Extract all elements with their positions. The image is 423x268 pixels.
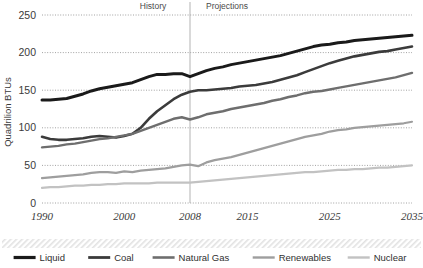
y-tick-label: 100 xyxy=(18,121,36,133)
y-tick-label: 250 xyxy=(18,9,36,21)
energy-outlook-chart: 050100150200250 199020002008201520252035… xyxy=(0,0,423,268)
decorative-hatch-band xyxy=(2,239,421,248)
x-tick-label: 2008 xyxy=(179,210,202,222)
legend-label: Natural Gas xyxy=(179,252,230,263)
y-axis-title: Quadrilion BTUs xyxy=(2,77,13,147)
y-tick-label: 0 xyxy=(30,197,36,209)
history-label: History xyxy=(140,1,167,11)
legend-label: Liquid xyxy=(40,252,65,263)
y-tick-label: 200 xyxy=(18,46,36,58)
x-tick-label: 2000 xyxy=(113,210,136,222)
y-tick-label: 150 xyxy=(18,84,36,96)
legend-label: Renewables xyxy=(279,252,332,263)
x-tick-label: 2035 xyxy=(401,210,423,222)
legend-label: Nuclear xyxy=(374,252,407,263)
y-tick-label: 50 xyxy=(24,159,36,171)
legend-label: Coal xyxy=(114,252,134,263)
chart-canvas: 050100150200250 199020002008201520252035… xyxy=(0,0,423,268)
x-tick-label: 2015 xyxy=(237,210,260,222)
x-tick-label: 2025 xyxy=(319,210,342,222)
projections-label: Projections xyxy=(206,1,248,11)
x-tick-label: 1990 xyxy=(31,210,54,222)
